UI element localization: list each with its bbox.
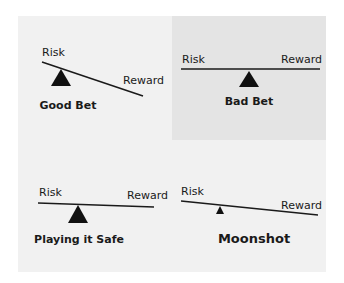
playing-it-safe-fulcrum-icon xyxy=(68,205,88,223)
moonshot-title: Moonshot xyxy=(218,232,290,245)
good-bet-reward-label: Reward xyxy=(123,75,164,86)
bad-bet-risk-label: Risk xyxy=(182,54,205,65)
bad-bet-fulcrum-icon xyxy=(239,71,259,87)
playing-it-safe-beam xyxy=(38,203,154,207)
bad-bet-reward-label: Reward xyxy=(281,54,322,65)
moonshot-reward-label: Reward xyxy=(281,200,322,211)
playing-it-safe-risk-label: Risk xyxy=(39,187,62,198)
good-bet-title: Good Bet xyxy=(40,100,97,111)
good-bet-risk-label: Risk xyxy=(42,47,65,58)
bad-bet-title: Bad Bet xyxy=(225,96,274,107)
good-bet-fulcrum-icon xyxy=(51,69,71,86)
playing-it-safe-title: Playing it Safe xyxy=(34,234,124,245)
moonshot-risk-label: Risk xyxy=(181,186,204,197)
playing-it-safe-reward-label: Reward xyxy=(127,190,168,201)
bad-bet-seesaw xyxy=(181,69,320,87)
moonshot-fulcrum-icon xyxy=(216,206,224,214)
playing-it-safe-seesaw xyxy=(38,203,154,223)
